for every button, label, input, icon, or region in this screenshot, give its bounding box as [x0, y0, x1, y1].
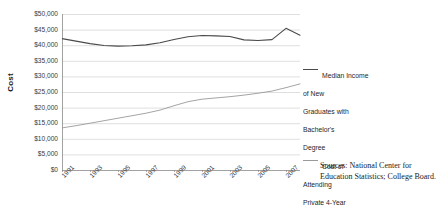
legend-line-swatch: [303, 160, 318, 161]
y-tick-label: $35,000: [12, 58, 58, 65]
legend-line-swatch: [303, 69, 318, 70]
source-note: Sources: National Center for Education S…: [320, 160, 438, 182]
y-tick-label: $15,000: [12, 120, 58, 127]
y-axis-tick-labels: $50,000$45,000$40,000$35,000$30,000$25,0…: [10, 0, 58, 214]
x-axis-tick-labels: 199119931995199719992001200320052007: [62, 170, 302, 214]
series-line-2: [62, 84, 300, 128]
series-line-1: [62, 28, 300, 46]
legend-item-label: Median Income of New Graduates with Bach…: [303, 72, 368, 151]
plot-svg: [62, 14, 302, 172]
line-chart: Cost $50,000$45,000$40,000$35,000$30,000…: [0, 0, 438, 214]
legend-item-1[interactable]: Median Income of New Graduates with Bach…: [303, 64, 435, 154]
y-tick-label: $50,000: [12, 11, 58, 18]
y-tick-label: $20,000: [12, 105, 58, 112]
y-tick-label: $30,000: [12, 73, 58, 80]
chart-legend: Median Income of New Graduates with Bach…: [303, 64, 435, 214]
y-tick-label: $40,000: [12, 42, 58, 49]
y-tick-label: $0: [12, 167, 58, 174]
y-tick-label: $10,000: [12, 136, 58, 143]
plot-area: [62, 14, 300, 170]
y-tick-label: $25,000: [12, 89, 58, 96]
y-tick-label: $45,000: [12, 27, 58, 34]
y-tick-label: $5,000: [12, 151, 58, 158]
